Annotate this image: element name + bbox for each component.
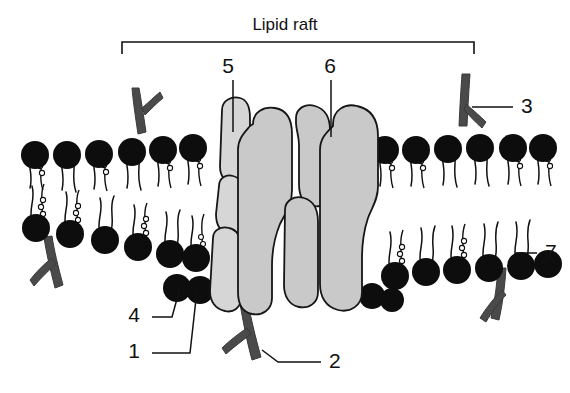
callout-label-1: 1 <box>128 339 140 362</box>
glycolipid-upper-right <box>459 74 486 128</box>
callout-label-4: 4 <box>128 303 140 326</box>
glycolipid-upper-left <box>132 88 163 134</box>
lipid-raft-bracket <box>122 42 474 54</box>
callout-label-3: 3 <box>521 94 533 117</box>
figure-title: Lipid raft <box>252 15 317 34</box>
glycolipid-lower-left <box>30 236 63 288</box>
integral-membrane-proteins <box>238 105 378 314</box>
callout-label-5: 5 <box>222 54 234 77</box>
callout-label-6: 6 <box>324 54 336 77</box>
callout-label-7: 7 <box>545 240 557 263</box>
lipid-raft-diagram: Lipid raft <box>0 0 570 393</box>
figure-canvas: Lipid raft <box>0 0 570 393</box>
leader-2 <box>262 350 321 362</box>
callout-label-2: 2 <box>329 349 341 372</box>
